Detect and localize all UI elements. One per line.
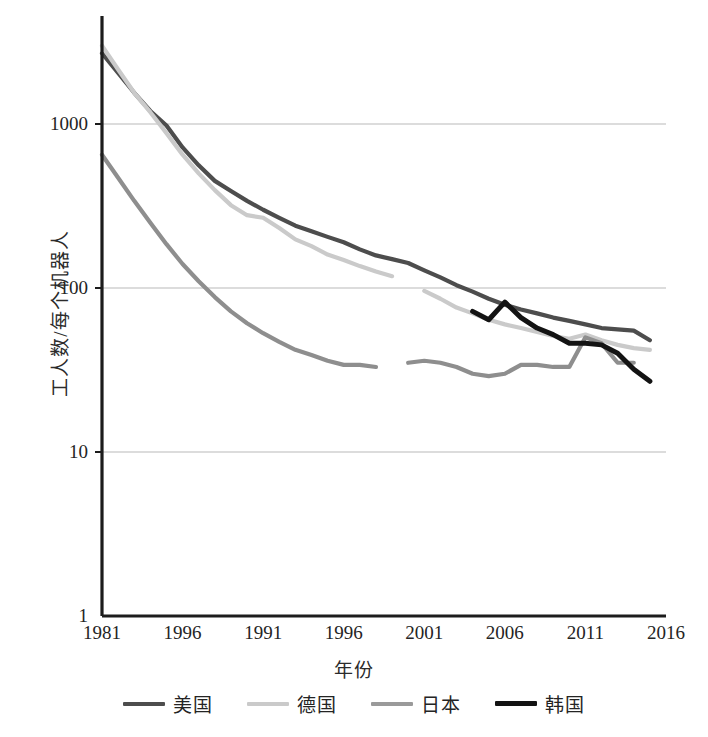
x-axis-tick-label: 1996 [325, 622, 363, 644]
y-axis-tick-label: 100 [30, 277, 88, 299]
legend-swatch-icon [371, 702, 413, 706]
legend-item-1[interactable]: 德国 [247, 690, 337, 717]
series-line-3 [473, 302, 650, 381]
legend-label: 美国 [173, 690, 213, 717]
series-line-0 [102, 53, 650, 340]
x-axis-tick-label: 2001 [405, 622, 443, 644]
x-axis-tick-label: 2006 [486, 622, 524, 644]
x-axis-title: 年份 [0, 655, 708, 682]
chart-root: 工人数/每个机器人 1000100101 1981199619911996200… [0, 0, 708, 737]
legend-label: 德国 [297, 690, 337, 717]
y-axis-tick-label: 10 [30, 441, 88, 463]
x-axis-tick-label: 1991 [244, 622, 282, 644]
legend-label: 日本 [421, 690, 461, 717]
series-line-2 [102, 155, 634, 376]
y-axis-tick-label: 1000 [30, 113, 88, 135]
legend-swatch-icon [123, 702, 165, 706]
legend-label: 韩国 [545, 690, 585, 717]
series-line-1 [102, 46, 650, 350]
x-axis-tick-label: 1981 [83, 622, 121, 644]
legend-item-3[interactable]: 韩国 [495, 690, 585, 717]
x-axis-tick-label: 2011 [567, 622, 604, 644]
legend-item-2[interactable]: 日本 [371, 690, 461, 717]
x-axis-tick-label: 1996 [164, 622, 202, 644]
y-axis-tick-labels: 1000100101 [26, 0, 88, 737]
chart-legend: 美国德国日本韩国 [0, 690, 708, 717]
legend-item-0[interactable]: 美国 [123, 690, 213, 717]
legend-swatch-icon [247, 702, 289, 706]
y-axis-tick-label: 1 [30, 605, 88, 627]
legend-swatch-icon [495, 701, 537, 706]
x-axis-tick-label: 2016 [647, 622, 685, 644]
